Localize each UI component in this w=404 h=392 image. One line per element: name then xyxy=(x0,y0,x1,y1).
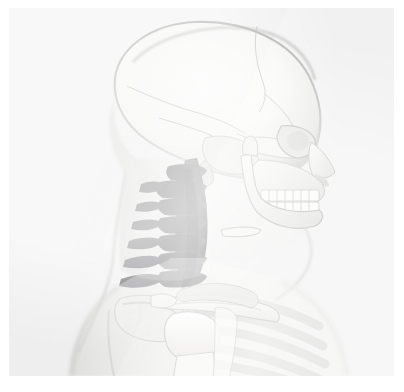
condylar-process xyxy=(242,136,257,156)
image-viewport: Grayscale anatomical rendering, right la… xyxy=(0,0,404,392)
image-alt-text: Grayscale anatomical rendering, right la… xyxy=(0,16,1,17)
upper-teeth xyxy=(261,190,319,201)
anatomy-image-panel xyxy=(9,8,394,376)
orbital-cavity-shadow xyxy=(287,131,309,151)
anatomy-svg xyxy=(9,8,394,376)
anatomy-render xyxy=(9,8,394,376)
